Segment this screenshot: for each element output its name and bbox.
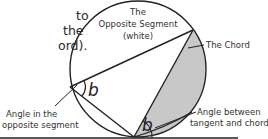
segment-label-line-2: Opposite Segment (99, 19, 179, 29)
tangent-angle-symbol: b (142, 115, 153, 135)
opposite-angle-pointer (55, 85, 77, 106)
circle-theorem-diagram: b b The Opposite Segment (white) The Cho… (0, 0, 268, 139)
segment-line-bottom (70, 87, 134, 137)
opposite-angle-label-1: Angle in the (6, 109, 57, 119)
opposite-angle-label-2: opposite segment (2, 120, 79, 130)
opposite-angle-symbol: b (88, 80, 99, 100)
chord-label: The Chord (205, 40, 250, 50)
segment-label-line-3: (white) (123, 31, 153, 41)
tangent-angle-label-2: tangent and chord (190, 118, 268, 128)
tangent-angle-label-1: Angle between (197, 107, 261, 117)
segment-label-line-1: The (129, 7, 146, 17)
opposite-angle-arc (82, 81, 85, 97)
